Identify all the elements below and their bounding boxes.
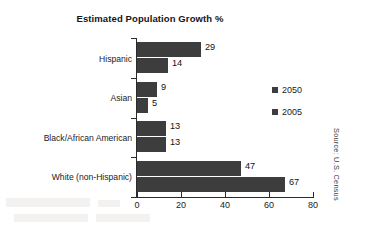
x-tick-label-0: 0: [125, 200, 149, 210]
bar-white-non-hispanic-2005: [137, 177, 285, 192]
x-axis-tick: [225, 192, 226, 197]
scan-artifact: [14, 214, 88, 222]
bar-value-asian-2005: 5: [152, 98, 157, 108]
bar-black-african-american-2005: [137, 137, 166, 152]
legend-item-2050[interactable]: 2050: [272, 85, 302, 95]
category-label-asian: Asian: [6, 93, 132, 103]
chart-title: Estimated Population Growth %: [0, 13, 300, 24]
legend-swatch-icon: [272, 87, 278, 93]
bar-hispanic-2005: [137, 58, 168, 73]
scan-artifact: [98, 200, 120, 207]
bar-asian-2050: [137, 82, 157, 97]
bar-asian-2005: [137, 98, 148, 113]
category-label-black-african-american: Black/African American: [6, 133, 132, 143]
y-axis-tick: [131, 157, 136, 158]
chart-legend: 2050 2005: [272, 85, 302, 129]
bar-value-white-non-hispanic-2050: 47: [245, 161, 255, 171]
x-tick-label-80: 80: [301, 200, 325, 210]
bar-value-black-african-american-2050: 13: [170, 121, 180, 131]
y-axis-tick: [131, 38, 136, 39]
chart-container: Estimated Population Growth % 0 20 40 60…: [0, 0, 366, 234]
category-label-hispanic: Hispanic: [6, 54, 132, 64]
bar-value-black-african-american-2005: 13: [170, 137, 180, 147]
y-axis-tick: [131, 118, 136, 119]
bar-value-white-non-hispanic-2005: 67: [289, 177, 299, 187]
x-axis-tick: [181, 192, 182, 197]
x-tick-label-40: 40: [213, 200, 237, 210]
y-axis-tick: [131, 197, 136, 198]
bar-value-hispanic-2005: 14: [172, 58, 182, 68]
scan-artifact: [96, 214, 150, 222]
y-axis-tick: [131, 78, 136, 79]
x-axis-tick: [137, 192, 138, 197]
x-tick-label-60: 60: [257, 200, 281, 210]
bar-value-asian-2050: 9: [161, 82, 166, 92]
legend-label-2050: 2050: [282, 85, 302, 95]
x-tick-label-20: 20: [169, 200, 193, 210]
legend-label-2005: 2005: [282, 107, 302, 117]
bar-hispanic-2050: [137, 42, 201, 57]
x-axis-line: [136, 197, 314, 198]
bar-black-african-american-2050: [137, 121, 166, 136]
legend-item-2005[interactable]: 2005: [272, 107, 302, 117]
x-axis-tick: [313, 192, 314, 197]
scan-artifact: [6, 198, 90, 207]
x-axis-tick: [269, 192, 270, 197]
bar-value-hispanic-2050: 29: [205, 42, 215, 52]
bar-white-non-hispanic-2050: [137, 161, 241, 176]
legend-swatch-icon: [272, 109, 278, 115]
category-label-white-non-hispanic: White (non-Hispanic): [6, 172, 132, 182]
source-credit: Source: U.S. Census: [332, 128, 341, 201]
